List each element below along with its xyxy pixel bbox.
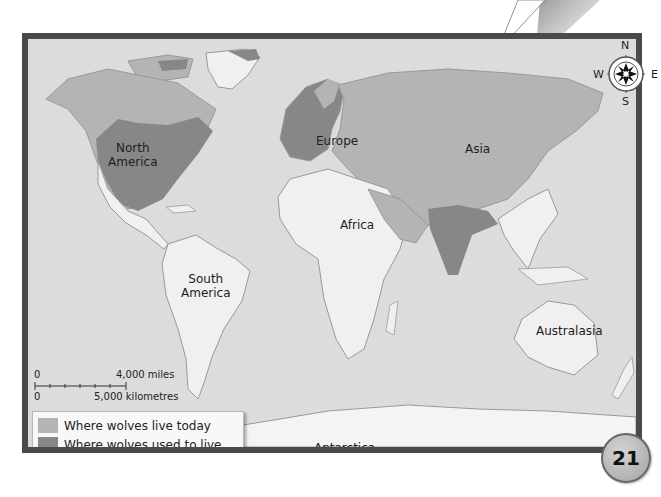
label-north-america-line2: America [108, 155, 158, 169]
legend-item-used-to: Where wolves used to live [38, 436, 221, 453]
map-legend: Where wolves live today Where wolves use… [32, 411, 244, 453]
label-south-america-line1: South [181, 272, 231, 286]
compass-north: N [621, 39, 629, 52]
scale-km-label: 5,000 kilometres [94, 391, 178, 402]
scale-zero-km: 0 [34, 391, 40, 402]
label-south-america: South America [181, 272, 231, 300]
label-europe: Europe [316, 134, 358, 148]
scale-miles-label: 4,000 miles [116, 369, 174, 380]
scale-zero-miles: 0 [34, 369, 40, 380]
compass-south: S [622, 95, 629, 108]
legend-swatch-used-to [38, 437, 58, 452]
world-map: North America Europe Asia Africa South A… [22, 33, 642, 453]
label-australasia: Australasia [536, 324, 603, 338]
compass-rose: N W E S [593, 35, 659, 109]
label-africa: Africa [340, 218, 374, 232]
label-south-america-line2: America [181, 286, 231, 300]
label-asia: Asia [465, 142, 490, 156]
compass-icon [607, 55, 645, 93]
compass-west: W [593, 68, 604, 81]
legend-label-today: Where wolves live today [64, 419, 211, 433]
scale-ruler [34, 382, 134, 390]
scale-bar: 0 4,000 miles 0 5,000 kilometres [32, 369, 207, 409]
compass-east: E [651, 68, 658, 81]
page-number-badge: 21 [601, 433, 651, 483]
legend-label-used-to: Where wolves used to live [64, 438, 221, 452]
legend-item-today: Where wolves live today [38, 417, 211, 434]
label-antarctica: Antarctica [314, 441, 375, 453]
label-north-america-line1: North [108, 141, 158, 155]
label-north-america: North America [108, 141, 158, 169]
legend-swatch-today [38, 418, 58, 433]
